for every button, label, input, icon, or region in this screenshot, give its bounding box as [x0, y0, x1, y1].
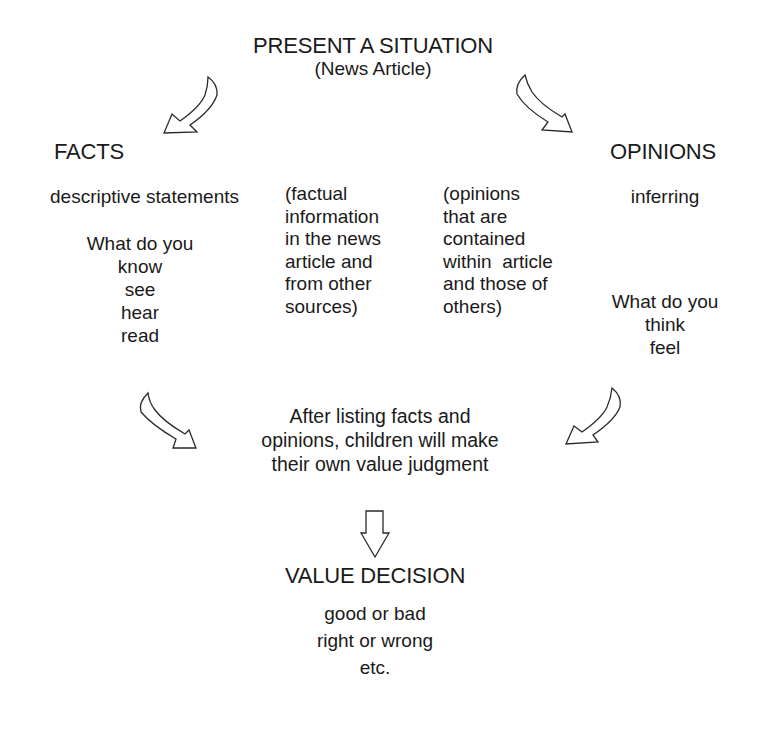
facts-prompt-line: see [60, 278, 220, 301]
down-arrow-icon [358, 508, 392, 560]
judgment-line: their own value judgment [200, 452, 560, 476]
facts-note-line: (factual [285, 183, 381, 206]
opinions-note-line: others) [443, 296, 553, 319]
opinions-note-line: contained [443, 228, 553, 251]
curved-arrow-icon [160, 70, 240, 140]
opinions-heading: OPINIONS [610, 141, 716, 163]
opinions-note-line: (opinions [443, 183, 553, 206]
opinions-note-line: within article [443, 251, 553, 274]
opinions-prompt: What do you think feel [600, 290, 730, 359]
facts-note: (factual information in the news article… [285, 183, 381, 318]
judgment-line: After listing facts and [200, 404, 560, 428]
decision-line: etc. [275, 654, 475, 681]
facts-prompt-line: read [60, 324, 220, 347]
facts-note-line: from other [285, 273, 381, 296]
judgment-text: After listing facts and opinions, childr… [200, 404, 560, 476]
facts-prompt-line: What do you [60, 232, 220, 255]
opinions-note: (opinions that are contained within arti… [443, 183, 553, 318]
decision-line: good or bad [275, 600, 475, 627]
facts-description: descriptive statements [50, 187, 239, 206]
opinions-prompt-line: What do you [600, 290, 730, 313]
situation-title: PRESENT A SITUATION [0, 35, 746, 57]
opinions-note-line: that are [443, 206, 553, 229]
opinions-description: inferring [600, 187, 730, 206]
facts-note-line: information [285, 206, 381, 229]
curved-arrow-icon [560, 380, 640, 450]
decision-heading: VALUE DECISION [0, 565, 750, 587]
opinions-prompt-line: feel [600, 336, 730, 359]
curved-arrow-icon [130, 385, 210, 455]
facts-prompt-line: know [60, 255, 220, 278]
facts-note-line: article and [285, 251, 381, 274]
opinions-note-line: and those of [443, 273, 553, 296]
facts-note-line: in the news [285, 228, 381, 251]
facts-heading: FACTS [54, 141, 124, 163]
decision-line: right or wrong [275, 627, 475, 654]
decision-options: good or bad right or wrong etc. [275, 600, 475, 681]
situation-subtitle: (News Article) [0, 59, 746, 78]
facts-prompt-line: hear [60, 301, 220, 324]
facts-prompt: What do you know see hear read [60, 232, 220, 347]
judgment-line: opinions, children will make [200, 428, 560, 452]
facts-note-line: sources) [285, 296, 381, 319]
curved-arrow-icon [510, 70, 590, 140]
opinions-prompt-line: think [600, 313, 730, 336]
